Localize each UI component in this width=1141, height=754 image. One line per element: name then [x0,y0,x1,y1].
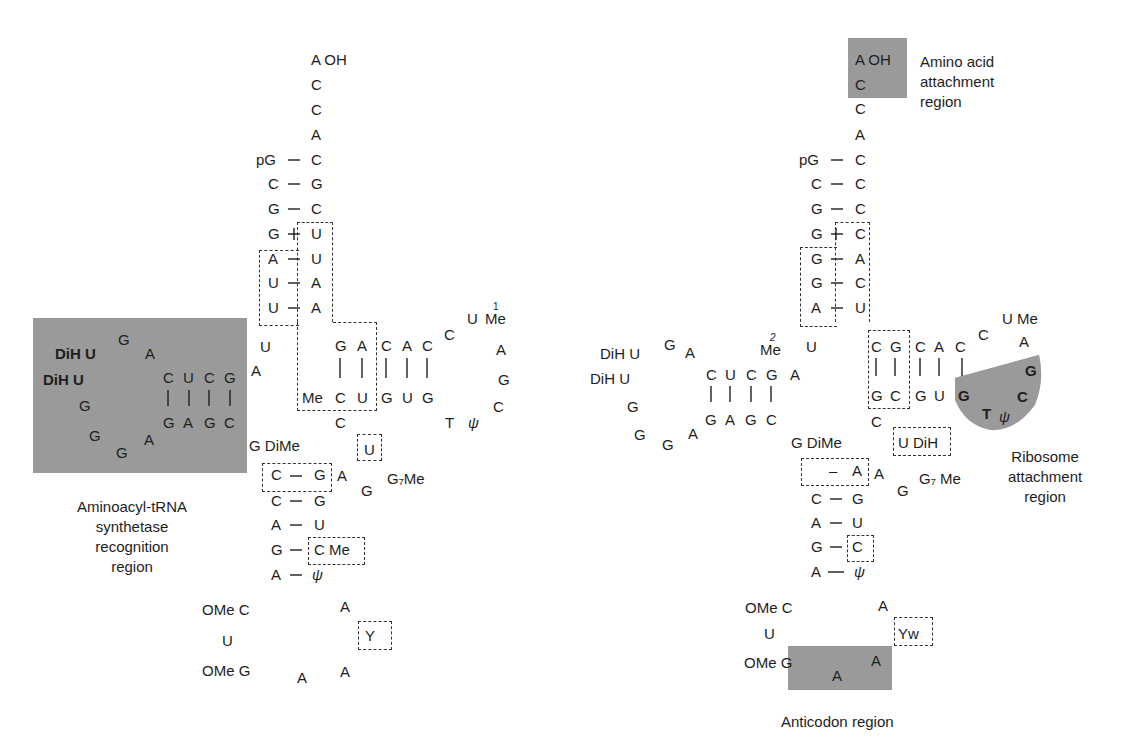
base-pair-bonds [0,0,1141,754]
